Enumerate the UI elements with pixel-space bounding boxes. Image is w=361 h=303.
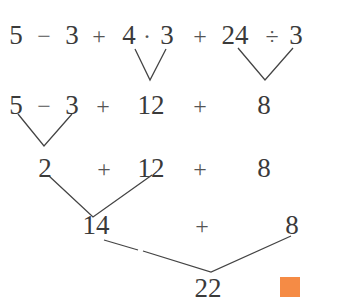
term: 8 <box>285 212 299 239</box>
operator-minus: − <box>37 24 51 48</box>
term: 5 <box>9 22 23 49</box>
term: 2 <box>38 155 52 182</box>
term: 14 <box>83 212 110 239</box>
term: 3 <box>65 22 79 49</box>
operator-divide: ÷ <box>265 24 278 48</box>
term: 3 <box>160 22 174 49</box>
operator-plus: + <box>193 157 207 181</box>
term: 8 <box>257 155 271 182</box>
operator-times: · <box>143 24 151 48</box>
connector-24div3 <box>238 48 293 80</box>
operator-plus: + <box>92 24 106 48</box>
term: 12 <box>138 155 165 182</box>
term: 3 <box>289 22 303 49</box>
operator-plus: + <box>193 94 207 118</box>
operator-plus: + <box>97 157 111 181</box>
operator-plus: + <box>193 24 207 48</box>
operator-plus: + <box>195 214 209 238</box>
operator-plus: + <box>96 94 110 118</box>
term: 5 <box>9 92 23 119</box>
end-of-example-marker <box>280 277 300 297</box>
term: 4 <box>122 22 136 49</box>
term: 24 <box>222 22 249 49</box>
connector-14plus8 <box>143 236 291 272</box>
term: 3 <box>65 92 79 119</box>
result: 22 <box>195 275 222 302</box>
connector-14-left <box>104 240 138 250</box>
term: 8 <box>257 92 271 119</box>
term: 12 <box>138 92 165 119</box>
connector-lines <box>0 0 361 303</box>
operator-minus: − <box>37 94 51 118</box>
connector-4x3 <box>135 49 166 80</box>
